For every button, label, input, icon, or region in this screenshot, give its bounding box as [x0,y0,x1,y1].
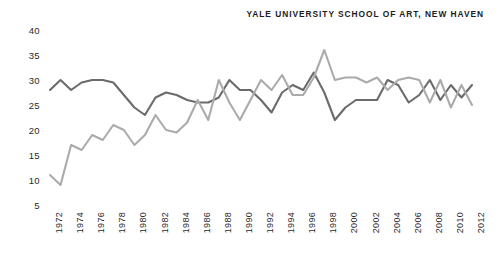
x-axis-tick-label: 1988 [223,212,233,233]
x-axis-labels: 1972197419761978198019821984198619881990… [0,0,498,275]
x-axis-tick-label: 1976 [96,212,106,233]
x-axis-tick-label: 1998 [328,212,338,233]
x-axis-tick-label: 2012 [476,212,486,233]
x-axis-tick-label: 2008 [434,212,444,233]
x-axis-tick-label: 1996 [307,212,317,233]
x-axis-tick-label: 2000 [349,212,359,233]
x-axis-tick-label: 1974 [75,212,85,233]
chart-page: YALE UNIVERSITY SCHOOL OF ART, NEW HAVEN… [0,0,498,275]
x-axis-tick-label: 2006 [413,212,423,233]
x-axis-tick-label: 1986 [202,212,212,233]
x-axis-tick-label: 1980 [138,212,148,233]
x-axis-tick-label: 1982 [160,212,170,233]
plot-area: 403530252015105 197219741976197819801982… [0,0,498,275]
x-axis-tick-label: 2010 [455,212,465,233]
x-axis-tick-label: 2002 [371,212,381,233]
x-axis-tick-label: 1990 [244,212,254,233]
x-axis-tick-label: 1984 [181,212,191,233]
x-axis-tick-label: 2004 [392,212,402,233]
x-axis-tick-label: 1972 [54,212,64,233]
x-axis-tick-label: 1978 [117,212,127,233]
x-axis-tick-label: 1994 [286,212,296,233]
x-axis-tick-label: 1992 [265,212,275,233]
